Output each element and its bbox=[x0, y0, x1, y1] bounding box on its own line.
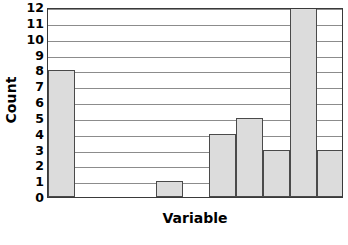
bar bbox=[156, 181, 183, 197]
y-axis-title-text: Count bbox=[3, 76, 19, 123]
x-axis-title: Variable bbox=[47, 210, 343, 226]
y-axis-tick-label: 7 bbox=[35, 81, 44, 94]
bar bbox=[48, 70, 75, 197]
y-axis-tick-label: 3 bbox=[35, 144, 44, 157]
y-axis-tick-label: 5 bbox=[35, 113, 44, 126]
y-axis-tick-label: 9 bbox=[35, 49, 44, 62]
y-axis-tick-label: 11 bbox=[27, 18, 44, 31]
y-axis-tick-labels: 0123456789101112 bbox=[20, 8, 46, 198]
y-axis-tick-label: 1 bbox=[35, 176, 44, 189]
y-axis-tick-label: 8 bbox=[35, 65, 44, 78]
plot-area bbox=[47, 8, 343, 198]
y-axis-tick-label: 10 bbox=[27, 33, 44, 46]
y-axis-tick-label: 12 bbox=[27, 2, 44, 15]
bar bbox=[263, 150, 290, 198]
y-axis-tick-label: 2 bbox=[35, 160, 44, 173]
y-axis-tick-label: 6 bbox=[35, 97, 44, 110]
bar bbox=[290, 8, 317, 197]
y-axis-tick-label: 4 bbox=[35, 128, 44, 141]
bar bbox=[317, 150, 343, 198]
bar bbox=[236, 118, 263, 197]
y-axis-tick-label: 0 bbox=[35, 192, 44, 205]
bar bbox=[209, 134, 236, 197]
y-axis-title: Count bbox=[0, 0, 22, 200]
histogram-chart: Count 0123456789101112 Variable bbox=[0, 0, 348, 245]
